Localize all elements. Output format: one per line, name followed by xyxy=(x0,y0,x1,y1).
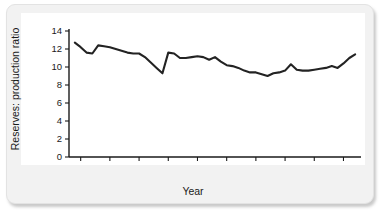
y-axis-tick-labels: 02468101214 xyxy=(51,25,62,162)
y-tick-label: 12 xyxy=(51,43,62,54)
x-axis-tick-labels: 1955196019651970197519801985199019952000 xyxy=(70,163,354,165)
x-tick-label: 1955 xyxy=(70,163,91,165)
line-chart: 02468101214 1955196019651970197519801985… xyxy=(21,13,365,165)
x-tick-label: 1960 xyxy=(99,163,120,165)
x-tick-label: 1975 xyxy=(187,163,208,165)
x-tick-label: 2000 xyxy=(333,163,354,165)
plot-card: 02468101214 1955196019651970197519801985… xyxy=(21,13,365,165)
x-tick-label: 1985 xyxy=(245,163,266,165)
x-tick-label: 1970 xyxy=(158,163,179,165)
chart-screenshot: 02468101214 1955196019651970197519801985… xyxy=(0,0,382,213)
x-tick-label: 1980 xyxy=(216,163,237,165)
y-tick-label: 8 xyxy=(57,79,62,90)
y-tick-label: 0 xyxy=(57,151,62,162)
y-tick-label: 2 xyxy=(57,133,62,144)
x-axis-title: Year xyxy=(182,185,204,197)
y-tick-label: 6 xyxy=(57,97,62,108)
x-tick-label: 1965 xyxy=(129,163,150,165)
y-axis-title: Reserves: production ratio xyxy=(9,28,21,151)
y-tick-label: 10 xyxy=(51,61,62,72)
x-tick-label: 1990 xyxy=(275,163,296,165)
data-series-line xyxy=(75,43,355,76)
y-tick-label: 14 xyxy=(51,25,62,36)
y-tick-label: 4 xyxy=(57,115,62,126)
figure-frame: 02468101214 1955196019651970197519801985… xyxy=(6,4,374,204)
x-tick-label: 1995 xyxy=(304,163,325,165)
